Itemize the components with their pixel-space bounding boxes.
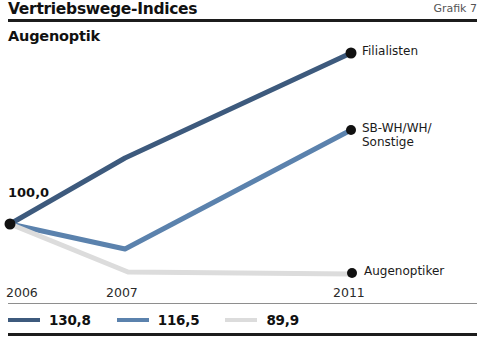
series-line-filialisten (10, 53, 351, 224)
axis-divider (8, 303, 477, 304)
chart-figure: Vertriebswege-Indices Grafik 7 Augenopti… (0, 0, 485, 343)
data-point-augenoptiker-end (347, 268, 357, 278)
xtick-2007: 2007 (106, 285, 138, 300)
legend-swatch-filialisten (8, 318, 40, 322)
start-value-label: 100,0 (8, 185, 49, 200)
legend-value-augenoptiker: 89,9 (266, 312, 299, 328)
chart-legend: 130,8 116,5 89,9 (8, 311, 477, 329)
series-label-augenoptiker: Augenoptiker (364, 265, 444, 279)
legend-item-sb-wh: 116,5 (117, 312, 200, 328)
legend-swatch-augenoptiker (225, 318, 257, 322)
series-label-filialisten: Filialisten (362, 45, 418, 59)
legend-value-sb-wh: 116,5 (158, 312, 200, 328)
data-point-start (5, 219, 16, 230)
series-label-sb-wh-line1: SB-WH/WH/ (362, 121, 432, 135)
series-label-sb-wh: SB-WH/WH/ Sonstige (362, 122, 432, 149)
bottom-divider (8, 333, 477, 336)
legend-value-filialisten: 130,8 (49, 312, 91, 328)
legend-item-augenoptiker: 89,9 (225, 312, 299, 328)
data-point-filialisten-end (346, 48, 357, 59)
series-label-augenoptiker-line1: Augenoptiker (364, 264, 444, 278)
legend-item-filialisten: 130,8 (8, 312, 91, 328)
series-line-sb-wh (10, 130, 351, 249)
series-label-sb-wh-line2: Sonstige (362, 135, 414, 149)
series-label-filialisten-line1: Filialisten (362, 44, 418, 58)
xtick-2011: 2011 (333, 285, 365, 300)
xtick-2006: 2006 (6, 285, 38, 300)
data-point-sb-wh-end (346, 125, 356, 135)
legend-swatch-sb-wh (117, 318, 149, 322)
series-line-augenoptiker (10, 224, 352, 274)
